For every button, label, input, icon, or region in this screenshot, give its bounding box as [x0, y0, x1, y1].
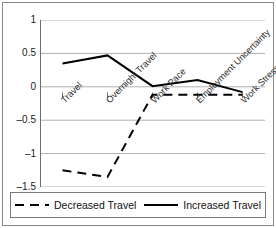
series-line-decreased-travel [63, 95, 243, 177]
y-tick-label: –0.5 [17, 115, 36, 125]
y-tick-label: –1.5 [17, 182, 36, 192]
legend-swatch-solid-icon [144, 200, 178, 210]
y-axis-tick-labels: 1 0.5 0 –0.5 –1 –1.5 [0, 20, 36, 187]
y-tick-label: 1 [30, 15, 36, 25]
legend-label-increased-travel: Increased Travel [183, 199, 261, 211]
plot-area: Travel Overnight Travel Work Pace Employ… [40, 20, 265, 187]
chart-legend: Decreased Travel Increased Travel [10, 192, 266, 218]
y-tick-label: 0 [30, 82, 36, 92]
chart-canvas [40, 20, 265, 187]
chart-figure: 1 0.5 0 –0.5 –1 –1.5 [0, 0, 276, 228]
legend-entry-increased-travel: Increased Travel [144, 199, 261, 211]
legend-label-decreased-travel: Decreased Travel [54, 199, 136, 211]
legend-entry-decreased-travel: Decreased Travel [15, 199, 136, 211]
y-gridlines [40, 20, 265, 187]
y-tick-label: 0.5 [22, 48, 36, 58]
legend-swatch-dashed-icon [15, 200, 49, 210]
y-tick-label: –1 [25, 149, 36, 159]
